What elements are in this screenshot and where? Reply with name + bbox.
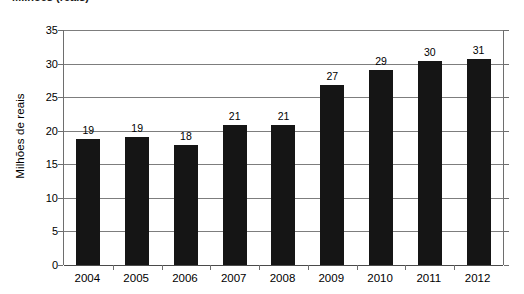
bar: [174, 145, 198, 265]
axis-tick-mark: [58, 64, 63, 65]
bar-series: 191918212127293031: [64, 30, 503, 265]
x-axis-tick-label: 2010: [367, 272, 393, 284]
x-axis-tick-mark: [162, 265, 163, 270]
bar-group: 29: [357, 30, 406, 265]
x-axis-tick-label: 2005: [123, 272, 149, 284]
bar: [223, 125, 247, 265]
axis-tick-mark: [504, 265, 509, 266]
bar-value-label: 19: [83, 124, 95, 136]
bar-group: 19: [64, 30, 113, 265]
plot-area: 191918212127293031: [63, 30, 504, 265]
bar-group: 18: [162, 30, 211, 265]
axis-tick-mark: [58, 265, 63, 266]
x-axis-tick-mark: [454, 265, 455, 270]
x-axis-tick-mark: [308, 265, 309, 270]
x-axis-tick-mark: [113, 265, 114, 270]
bar-value-label: 21: [278, 110, 290, 122]
axis-tick-mark: [58, 164, 63, 165]
bar-group: 31: [454, 30, 503, 265]
axis-tick-mark: [58, 198, 63, 199]
bar: [76, 139, 100, 265]
bar-value-label: 18: [180, 130, 192, 142]
bar-group: 19: [113, 30, 162, 265]
bar: [271, 125, 295, 265]
x-axis-tick-label: 2012: [465, 272, 491, 284]
axis-tick-mark: [504, 231, 509, 232]
bar: [369, 70, 393, 265]
x-axis-baseline: [64, 265, 503, 266]
bar-value-label: 27: [326, 70, 338, 82]
axis-tick-mark: [58, 131, 63, 132]
axis-tick-mark: [504, 64, 509, 65]
axis-tick-mark: [504, 131, 509, 132]
y-axis-tick-label: 35: [46, 24, 58, 36]
x-axis-tick-label: 2008: [270, 272, 296, 284]
y-axis-tick-label: 15: [46, 158, 58, 170]
bar-value-label: 30: [424, 46, 436, 58]
bar-value-label: 31: [473, 44, 485, 56]
bar: [467, 59, 491, 265]
x-axis-tick-labels: 200420052006200720082009201020112012: [63, 272, 502, 292]
x-axis-tick-label: 2009: [318, 272, 344, 284]
y-axis-tick-labels: 05101520253035: [36, 0, 58, 294]
axis-tick-mark: [58, 30, 63, 31]
bar: [125, 137, 149, 265]
y-axis-tick-label: 10: [46, 192, 58, 204]
x-axis-tick-label: 2004: [75, 272, 101, 284]
axis-tick-mark: [58, 97, 63, 98]
axis-tick-mark: [504, 30, 509, 31]
x-axis-tick-label: 2011: [416, 272, 441, 284]
axis-tick-mark: [504, 97, 509, 98]
axis-tick-mark: [58, 231, 63, 232]
bar: [418, 61, 442, 265]
x-axis-tick-mark: [210, 265, 211, 270]
y-axis-title: Milhões de reais: [0, 0, 40, 272]
x-axis-tick-label: 2006: [172, 272, 198, 284]
y-axis-title-label: Milhões de reais: [14, 93, 26, 178]
bar-value-label: 29: [375, 55, 387, 67]
x-axis-tick-mark: [357, 265, 358, 270]
y-axis-tick-label: 30: [46, 58, 58, 70]
bar-group: 30: [405, 30, 454, 265]
y-axis-tick-label: 20: [46, 125, 58, 137]
bar-value-label: 21: [229, 110, 241, 122]
x-axis-tick-mark: [405, 265, 406, 270]
x-axis-tick-mark: [259, 265, 260, 270]
bar-group: 21: [259, 30, 308, 265]
axis-tick-mark: [504, 198, 509, 199]
bar: [320, 85, 344, 265]
bar-group: 27: [308, 30, 357, 265]
bar-group: 21: [210, 30, 259, 265]
x-axis-tick-label: 2007: [221, 272, 247, 284]
axis-tick-mark: [504, 164, 509, 165]
bar-value-label: 19: [131, 122, 143, 134]
y-axis-tick-label: 25: [46, 91, 58, 103]
